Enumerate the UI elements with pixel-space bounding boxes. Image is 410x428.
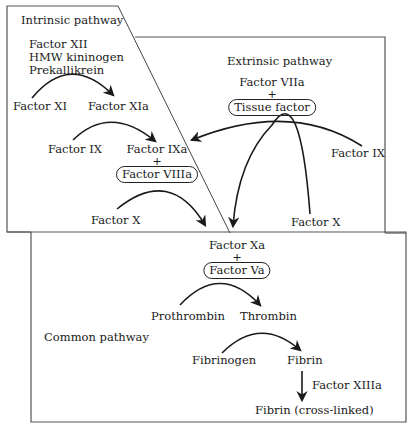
label-factor-ix: Factor IX — [48, 143, 102, 156]
label-fibrinogen: Fibrinogen — [192, 354, 256, 367]
label-factor-x-extrinsic: Factor X — [291, 216, 340, 229]
common-pathway-label: Common pathway — [44, 331, 149, 344]
cofactor-tissue-factor: Tissue factor — [228, 99, 316, 116]
label-prothrombin: Prothrombin — [151, 310, 225, 323]
initiator-prekallikrein: Prekallikrein — [29, 64, 104, 77]
arrow-x-to-xa-extrinsic — [233, 114, 310, 226]
arrow-prothrombin-to-thrombin — [180, 284, 260, 306]
intrinsic-box-slant — [118, 6, 230, 233]
arrow-ix-to-ixa — [73, 122, 155, 141]
label-fibrin-cross-linked: Fibrin (cross-linked) — [255, 404, 374, 417]
label-factor-xiiia: Factor XIIIa — [312, 379, 382, 392]
label-factor-xia: Factor XIa — [88, 100, 149, 113]
label-fibrin: Fibrin — [287, 354, 323, 367]
label-factor-xi: Factor XI — [13, 100, 67, 113]
label-factor-ix-extrinsic: Factor IX — [331, 147, 385, 160]
arrow-ix-to-ixa-extrinsic — [192, 121, 362, 146]
extrinsic-pathway-label: Extrinsic pathway — [227, 55, 332, 68]
label-factor-x-intrinsic: Factor X — [91, 214, 140, 227]
intrinsic-pathway-label: Intrinsic pathway — [21, 14, 123, 27]
arrow-fibrinogen-to-fibrin — [222, 333, 300, 353]
cofactor-factor-va: Factor Va — [203, 262, 270, 279]
cofactor-factor-viiia: Factor VIIIa — [116, 166, 198, 183]
arrow-xi-to-xia — [32, 74, 113, 98]
label-thrombin: Thrombin — [240, 310, 297, 323]
common-box-outline — [7, 232, 406, 422]
